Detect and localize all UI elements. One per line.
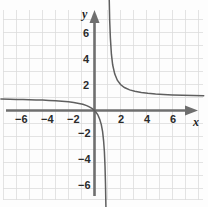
- graph-figure: y x −6 −4 −2 2 4 6 6 4 2 −2 −4 −6: [0, 0, 208, 207]
- x-tick-label-minus4: −4: [41, 114, 54, 125]
- axis-lines: [6, 18, 190, 196]
- x-tick-label-4: 4: [144, 114, 150, 125]
- y-tick-label-minus2: −2: [78, 128, 91, 139]
- y-tick-label-minus4: −4: [78, 154, 91, 165]
- x-tick-label-6: 6: [170, 114, 176, 125]
- coordinate-plane: [0, 0, 208, 207]
- y-tick-label-4: 4: [83, 54, 89, 65]
- x-tick-label-minus2: −2: [67, 114, 80, 125]
- x-axis-arrowhead: [185, 106, 198, 116]
- x-axis-label: x: [193, 116, 199, 128]
- grid-lines: [3, 10, 203, 200]
- y-tick-label-2: 2: [83, 80, 89, 91]
- y-tick-label-minus6: −6: [78, 180, 91, 191]
- y-tick-label-6: 6: [83, 28, 89, 39]
- y-axis-label: y: [82, 8, 87, 20]
- x-tick-label-minus6: −6: [15, 114, 28, 125]
- x-tick-label-2: 2: [118, 114, 124, 125]
- curve-right-branch: [109, 0, 204, 96]
- y-axis-arrowhead: [90, 10, 100, 23]
